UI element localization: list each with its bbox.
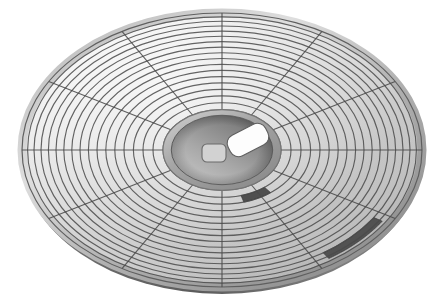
center-hub[interactable] [163, 110, 281, 191]
image-canvas [0, 0, 433, 302]
segmented-disc-illustration [0, 0, 433, 302]
small-square-port[interactable] [202, 144, 226, 162]
